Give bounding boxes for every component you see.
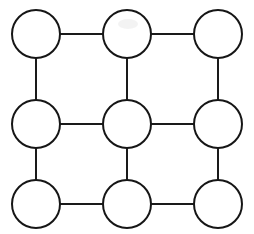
graph-node-r3c2[interactable] [103, 180, 151, 228]
graph-node-r2c1[interactable] [12, 100, 60, 148]
graph-node-r3c3[interactable] [194, 180, 242, 228]
smudge-artifact-icon [118, 19, 138, 29]
graph-node-r1c1[interactable] [12, 10, 60, 58]
graph-node-r1c2[interactable] [103, 10, 151, 58]
grid-graph-diagram [0, 0, 254, 234]
graph-node-r3c1[interactable] [12, 180, 60, 228]
graph-node-r2c3[interactable] [194, 100, 242, 148]
diagram-canvas [0, 0, 254, 234]
node-layer [12, 10, 242, 228]
graph-node-r1c3[interactable] [194, 10, 242, 58]
graph-node-r2c2[interactable] [103, 100, 151, 148]
artifact-layer [118, 19, 138, 29]
